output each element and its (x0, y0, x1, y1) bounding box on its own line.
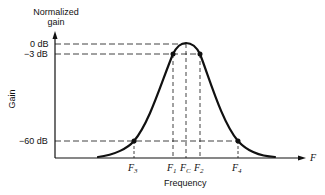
x-marker-fc: FC (180, 163, 191, 176)
y-axis-title: Normalized gain (33, 7, 79, 27)
x-axis-label: Frequency (164, 178, 207, 188)
y-axis-arrow-icon (53, 31, 58, 39)
x-marker-f4: F4 (232, 163, 242, 176)
x-axis-arrow-label: F (310, 153, 316, 163)
bandpass-response-diagram (0, 0, 325, 195)
y-tick-minus60db: −60 dB (19, 136, 48, 146)
y-tick-minus3db: −3 dB (24, 49, 48, 59)
point-f2 (198, 52, 203, 57)
x-marker-f2: F2 (194, 163, 204, 176)
response-curve (98, 43, 275, 157)
point-f3 (132, 139, 137, 144)
x-marker-f3: F3 (128, 163, 138, 176)
y-axis-label: Gain (7, 89, 17, 108)
point-f1 (171, 52, 176, 57)
x-axis-arrow-icon (298, 156, 306, 161)
y-tick-0db: 0 dB (30, 39, 49, 49)
x-marker-f1: F1 (167, 163, 177, 176)
point-f4 (236, 139, 241, 144)
